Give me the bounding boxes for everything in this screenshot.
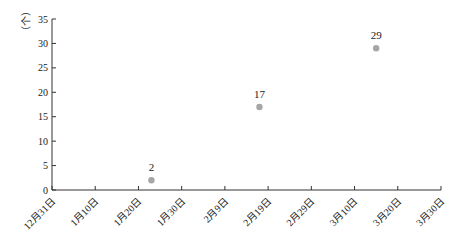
x-tick-label: 2月29日 [284,196,317,229]
scatter-chart: 05101520253035（个）12月31日1月10日1月20日1月30日2月… [0,0,471,242]
y-tick-label: 30 [38,38,48,49]
x-tick-label: 2月9日 [201,196,230,225]
data-point-label: 2 [149,161,155,173]
x-tick-label: 3月20日 [371,196,404,229]
x-tick-label: 2月19日 [241,196,274,229]
y-axis-label: （个） [21,6,32,36]
data-point [256,104,262,110]
data-point-label: 17 [254,88,266,100]
y-tick-label: 0 [43,185,48,196]
y-tick-label: 35 [38,14,48,25]
y-tick-label: 25 [38,62,48,73]
x-tick-label: 1月30日 [155,196,188,229]
data-point [148,177,154,183]
axes: 05101520253035（个）12月31日1月10日1月20日1月30日2月… [21,6,446,232]
x-tick-label: 1月10日 [68,196,101,229]
data-points: 21729 [148,29,382,183]
x-tick-label: 3月10日 [327,196,360,229]
y-tick-label: 20 [38,87,48,98]
x-tick-label: 1月20日 [111,196,144,229]
y-tick-label: 10 [38,136,48,147]
y-tick-label: 15 [38,111,48,122]
data-point-label: 29 [371,29,383,41]
x-tick-label: 3月30日 [414,196,447,229]
data-point [373,45,379,51]
x-tick-label: 12月31日 [21,196,57,232]
y-tick-label: 5 [43,160,48,171]
